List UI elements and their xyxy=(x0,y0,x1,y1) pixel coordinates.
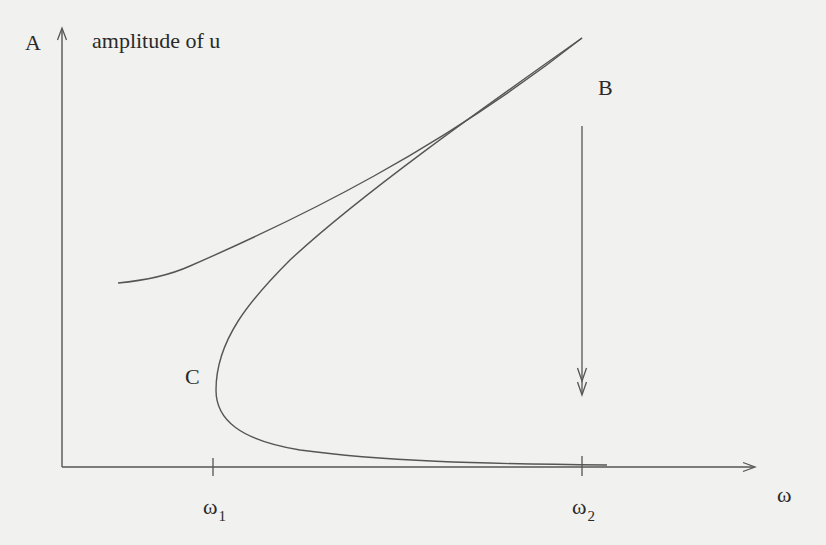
subscript: 2 xyxy=(587,508,595,524)
jump-down-arrow xyxy=(578,126,587,395)
y-axis-label: amplitude of u xyxy=(92,30,220,52)
point-label-b: B xyxy=(598,77,613,99)
tick-label-omega-2: ω2 xyxy=(572,496,595,518)
middle-unstable-branch xyxy=(216,38,582,390)
upper-stable-branch xyxy=(118,38,582,283)
omega-symbol: ω xyxy=(572,494,586,519)
y-axis-symbol: A xyxy=(25,32,41,54)
bifurcation-diagram: A amplitude of u B C ω1 ω2 ω xyxy=(0,0,826,545)
tick-label-omega-1: ω1 xyxy=(203,496,226,518)
lower-stable-branch xyxy=(216,390,607,465)
subscript: 1 xyxy=(218,508,226,524)
omega-symbol: ω xyxy=(203,494,217,519)
diagram-canvas xyxy=(0,0,826,545)
point-label-c: C xyxy=(185,366,200,388)
x-axis xyxy=(62,463,755,472)
y-axis xyxy=(58,28,67,467)
x-axis-symbol: ω xyxy=(777,484,791,506)
